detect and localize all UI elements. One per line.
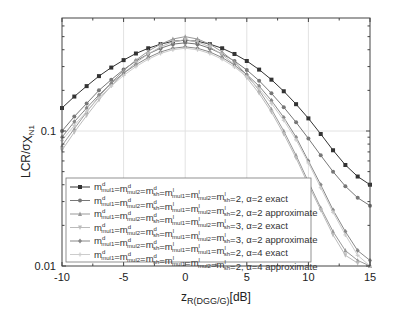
y-tick-label: 0.01 xyxy=(35,260,56,272)
x-tick-label: -10 xyxy=(54,271,70,283)
x-tick-label: 5 xyxy=(244,271,250,283)
y-tick-label: 0.1 xyxy=(41,125,56,137)
x-tick-label: 10 xyxy=(302,271,314,283)
lcr-chart: -10-50510150.010.1zR(DGG/G)[dB]LCR/σXN1m… xyxy=(0,0,393,320)
legend: mdmul1=mdmul2=mdsh=mlmul1=mlmul2=mlsh=2,… xyxy=(66,178,317,272)
x-tick-label: -5 xyxy=(119,271,129,283)
x-tick-label: 15 xyxy=(364,271,376,283)
y-axis-label: LCR/σXN1 xyxy=(19,124,36,178)
x-tick-label: 0 xyxy=(182,271,188,283)
x-axis-label: zR(DGG/G)[dB] xyxy=(181,290,251,306)
